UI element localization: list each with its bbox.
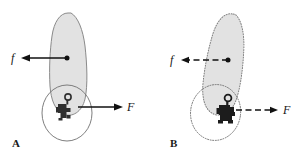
panel-b-force-f-label: f bbox=[170, 53, 175, 67]
panel-a: f F A bbox=[11, 13, 135, 149]
panel-a-force-F-label: F bbox=[126, 100, 135, 114]
panel-b bbox=[187, 10, 256, 144]
figure-root: f F A bbox=[0, 0, 307, 156]
panel-a-letter-label: A bbox=[12, 137, 20, 149]
panel-b-force-F-label: F bbox=[282, 103, 291, 117]
panel-a-force-F-arrow bbox=[78, 103, 123, 110]
panel-b-letter-label: B bbox=[170, 137, 178, 149]
figure-canvas: f F A bbox=[0, 0, 307, 156]
panel-b-force-F-arrow bbox=[236, 107, 278, 113]
panel-b-body-shape bbox=[198, 11, 251, 118]
panel-a-force-f-label: f bbox=[11, 51, 16, 65]
